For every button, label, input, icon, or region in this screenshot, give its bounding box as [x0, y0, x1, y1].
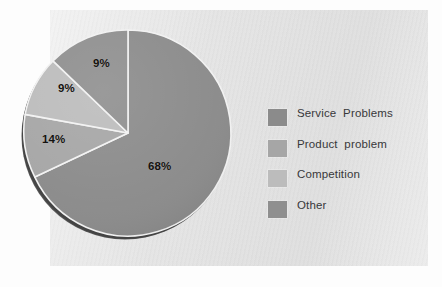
chart-legend: Service Problems Product problem Competi… — [266, 104, 426, 226]
legend-label-competition: Competition — [297, 168, 360, 180]
scanned-figure: 68% 14% 9% 9% Service Problems Product p… — [0, 0, 442, 287]
legend-swatch-other — [268, 201, 287, 218]
legend-label-other: Other — [297, 199, 327, 211]
pie-chart: 68% 14% 9% 9% — [0, 0, 250, 287]
legend-item-service-problems: Service Problems — [266, 104, 426, 135]
pie-chart-svg — [0, 0, 250, 287]
pie-label-product-problem: 14% — [42, 133, 65, 145]
legend-swatch-product-problem — [268, 140, 287, 157]
legend-swatch-competition — [268, 170, 287, 187]
pie-label-other: 9% — [93, 57, 110, 69]
pie-label-service-problems: 68% — [148, 160, 171, 172]
legend-item-competition: Competition — [266, 165, 426, 196]
legend-label-product-problem: Product problem — [297, 138, 387, 150]
legend-item-other: Other — [266, 196, 426, 227]
legend-label-service-problems: Service Problems — [297, 107, 393, 119]
pie-label-competition: 9% — [58, 82, 75, 94]
legend-item-product-problem: Product problem — [266, 135, 426, 166]
legend-swatch-service-problems — [268, 109, 287, 126]
